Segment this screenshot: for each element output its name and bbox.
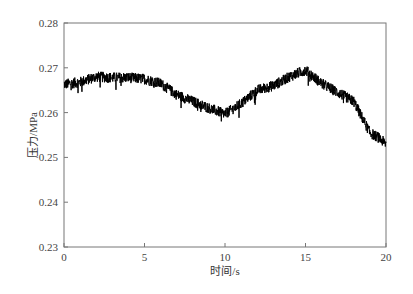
plot-frame: [64, 23, 386, 247]
plot-axes: 0.230.240.250.260.270.2805101520: [39, 17, 392, 263]
x-tick-label: 15: [300, 251, 312, 263]
y-tick-label: 0.24: [39, 196, 59, 208]
x-axis-label: 时间/s: [210, 265, 239, 277]
x-tick-label: 5: [142, 251, 148, 263]
y-tick-label: 0.25: [39, 151, 59, 163]
y-tick-label: 0.23: [39, 241, 59, 253]
y-tick-label: 0.26: [39, 107, 59, 119]
data-series: [64, 67, 386, 147]
pressure-time-chart: 0.230.240.250.260.270.2805101520 时间/s 压力…: [0, 0, 413, 294]
y-tick-label: 0.28: [39, 17, 59, 29]
y-axis-label: 压力/MPa: [27, 112, 39, 158]
y-tick-label: 0.27: [39, 62, 59, 74]
pressure-line: [64, 67, 386, 147]
x-tick-label: 0: [61, 251, 67, 263]
axis-labels: 时间/s 压力/MPa: [27, 112, 240, 277]
x-tick-label: 10: [220, 251, 232, 263]
x-tick-label: 20: [381, 251, 393, 263]
